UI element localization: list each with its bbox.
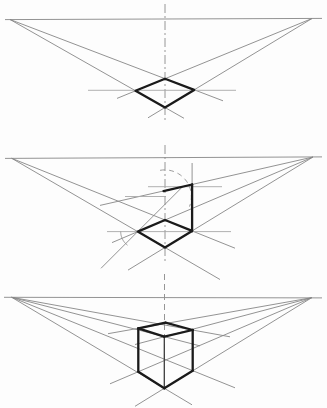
construction-line <box>135 298 312 407</box>
construction-line <box>100 157 313 205</box>
construction-line <box>110 298 312 384</box>
construction-line <box>164 330 192 337</box>
construction-line <box>5 18 322 19</box>
construction-line <box>5 157 322 159</box>
construction-line <box>138 323 165 329</box>
construction-line <box>135 298 312 345</box>
step-1-perspective-base-square <box>5 4 322 122</box>
construction-line <box>138 328 164 336</box>
construction-line <box>12 297 200 346</box>
construction-line <box>12 158 235 248</box>
step-2-height-construction <box>5 145 322 280</box>
construction-line <box>164 371 192 389</box>
perspective-construction-diagram <box>0 0 327 408</box>
step-3-completed-cube <box>4 274 322 406</box>
perspective-drawing-svg <box>0 0 327 408</box>
construction-line <box>12 297 235 388</box>
construction-line <box>166 323 193 330</box>
construction-line <box>138 372 164 389</box>
construction-line <box>164 185 193 192</box>
construction-line <box>12 158 220 279</box>
construction-line <box>4 297 322 298</box>
